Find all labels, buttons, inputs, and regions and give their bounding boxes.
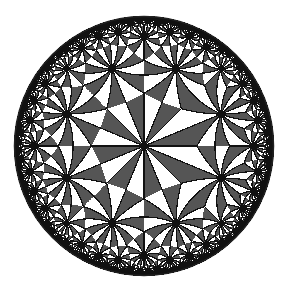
poincare-disk-tiling — [0, 0, 288, 292]
hyperbolic-tiling-figure — [0, 0, 288, 292]
